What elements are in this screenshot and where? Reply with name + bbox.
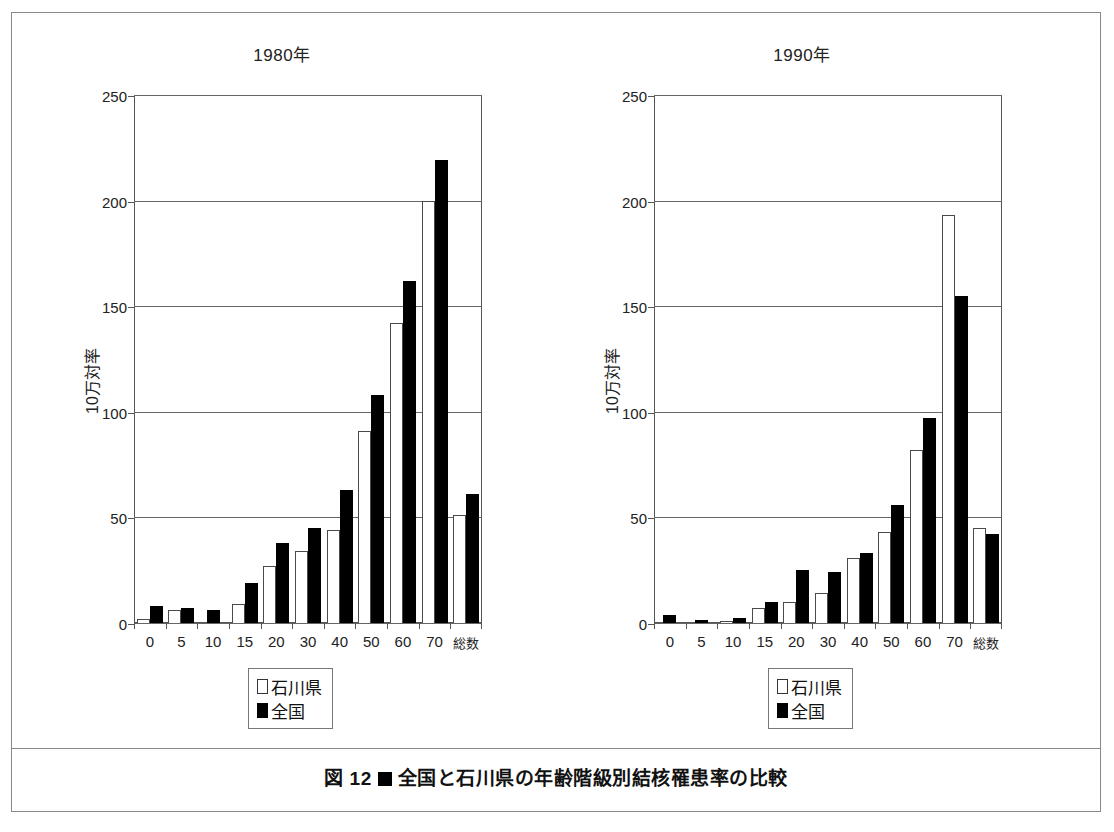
bars-layer-1990 bbox=[654, 95, 1002, 623]
y-tick-label: 0 bbox=[119, 616, 127, 633]
y-tick-label: 50 bbox=[630, 510, 647, 527]
bar-group bbox=[261, 95, 293, 623]
bar-prefecture[interactable] bbox=[232, 604, 245, 623]
bar-prefecture[interactable] bbox=[752, 608, 765, 623]
bar-group bbox=[229, 95, 261, 623]
bar-group bbox=[166, 95, 198, 623]
bar-national[interactable] bbox=[403, 281, 416, 623]
y-tick-label: 150 bbox=[622, 299, 647, 316]
legend-item-national[interactable]: 全国 bbox=[257, 698, 322, 722]
bar-group bbox=[654, 95, 686, 623]
bar-prefecture[interactable] bbox=[453, 515, 466, 623]
y-tick-label: 250 bbox=[102, 88, 127, 105]
bar-prefecture[interactable] bbox=[295, 551, 308, 623]
bar-prefecture[interactable] bbox=[973, 528, 986, 623]
x-tick-label: 0 bbox=[134, 623, 166, 652]
bar-prefecture[interactable] bbox=[168, 610, 181, 623]
caption-divider bbox=[12, 748, 1100, 749]
bar-national[interactable] bbox=[796, 570, 809, 623]
chart-panel-1990: 1990年 10万対率 250 200 150 100 bbox=[542, 13, 1062, 748]
bar-national[interactable] bbox=[181, 608, 194, 623]
x-tick-labels-1980: 051015203040506070総数 bbox=[134, 623, 482, 652]
bar-national[interactable] bbox=[340, 490, 353, 623]
legend-item-national[interactable]: 全国 bbox=[777, 698, 842, 722]
legend-label-national: 全国 bbox=[791, 698, 825, 723]
figure-caption-text: 全国と石川県の年齢階級別結核罹患率の比較 bbox=[398, 768, 788, 789]
bar-group bbox=[781, 95, 813, 623]
y-axis-label-1990: 10万対率 bbox=[599, 348, 623, 414]
bar-national[interactable] bbox=[276, 543, 289, 623]
bar-prefecture[interactable] bbox=[263, 566, 276, 623]
legend-label-prefecture: 石川県 bbox=[271, 674, 322, 699]
bar-national[interactable] bbox=[308, 528, 321, 623]
bar-group bbox=[197, 95, 229, 623]
chart-title-1990: 1990年 bbox=[542, 41, 1062, 66]
x-tick-label: 70 bbox=[939, 623, 971, 652]
legend-swatch-prefecture-icon bbox=[777, 679, 788, 694]
bar-group bbox=[717, 95, 749, 623]
bar-group bbox=[686, 95, 718, 623]
bar-national[interactable] bbox=[828, 572, 841, 623]
bar-national[interactable] bbox=[207, 610, 220, 623]
figure-caption: 図 12全国と石川県の年齢階級別結核罹患率の比較 bbox=[12, 763, 1100, 790]
y-tick-label: 0 bbox=[639, 616, 647, 633]
bar-group bbox=[292, 95, 324, 623]
black-square-icon bbox=[378, 772, 392, 786]
bars-layer-1980 bbox=[134, 95, 482, 623]
bar-prefecture[interactable] bbox=[942, 215, 955, 623]
bar-prefecture[interactable] bbox=[847, 558, 860, 623]
legend-label-prefecture: 石川県 bbox=[791, 674, 842, 699]
x-tick-label: 40 bbox=[324, 623, 356, 652]
bar-prefecture[interactable] bbox=[878, 532, 891, 623]
bar-group bbox=[324, 95, 356, 623]
bar-national[interactable] bbox=[765, 602, 778, 623]
bar-group bbox=[355, 95, 387, 623]
legend-item-prefecture[interactable]: 石川県 bbox=[257, 674, 322, 698]
bar-national[interactable] bbox=[245, 583, 258, 623]
bar-prefecture[interactable] bbox=[815, 593, 828, 623]
x-tick-label: 50 bbox=[355, 623, 387, 652]
bar-national[interactable] bbox=[466, 494, 479, 623]
bar-national[interactable] bbox=[371, 395, 384, 623]
legend-1980: 石川県 全国 bbox=[248, 668, 333, 729]
y-axis-label-1980: 10万対率 bbox=[79, 348, 103, 414]
legend-swatch-national-icon bbox=[257, 703, 268, 718]
y-tick-label: 200 bbox=[622, 193, 647, 210]
bar-group bbox=[844, 95, 876, 623]
x-tick-label: 30 bbox=[812, 623, 844, 652]
bar-national[interactable] bbox=[891, 505, 904, 623]
bar-national[interactable] bbox=[923, 418, 936, 623]
bar-national[interactable] bbox=[663, 615, 676, 623]
legend-label-national: 全国 bbox=[271, 698, 305, 723]
chart-title-1980: 1980年 bbox=[22, 41, 542, 66]
legend-swatch-national-icon bbox=[777, 703, 788, 718]
bar-national[interactable] bbox=[435, 160, 448, 623]
x-tick-label: 60 bbox=[387, 623, 419, 652]
bar-national[interactable] bbox=[955, 296, 968, 623]
bar-prefecture[interactable] bbox=[910, 450, 923, 623]
charts-row: 1980年 10万対率 250 200 150 bbox=[12, 13, 1102, 748]
bar-prefecture[interactable] bbox=[390, 323, 403, 623]
x-tick-label: 30 bbox=[292, 623, 324, 652]
legend-swatch-prefecture-icon bbox=[257, 679, 268, 694]
bar-prefecture[interactable] bbox=[422, 201, 435, 623]
bar-national[interactable] bbox=[986, 534, 999, 623]
x-tick-label: 15 bbox=[229, 623, 261, 652]
plot-area-1990: 250 200 150 100 50 bbox=[654, 95, 1002, 623]
y-tick-label: 50 bbox=[110, 510, 127, 527]
bar-prefecture[interactable] bbox=[358, 431, 371, 623]
bar-group bbox=[907, 95, 939, 623]
x-tick-label: 20 bbox=[261, 623, 293, 652]
bar-national[interactable] bbox=[150, 606, 163, 623]
plot-area-1980: 250 200 150 100 50 bbox=[134, 95, 482, 623]
figure-frame: 1980年 10万対率 250 200 150 bbox=[11, 12, 1101, 812]
bar-prefecture[interactable] bbox=[327, 530, 340, 623]
bar-prefecture[interactable] bbox=[783, 602, 796, 623]
x-tick-label: 10 bbox=[197, 623, 229, 652]
legend-1990: 石川県 全国 bbox=[768, 668, 853, 729]
legend-item-prefecture[interactable]: 石川県 bbox=[777, 674, 842, 698]
bar-national[interactable] bbox=[860, 553, 873, 623]
y-tick-label: 100 bbox=[102, 404, 127, 421]
bar-group bbox=[970, 95, 1002, 623]
x-tick-label: 5 bbox=[686, 623, 718, 652]
